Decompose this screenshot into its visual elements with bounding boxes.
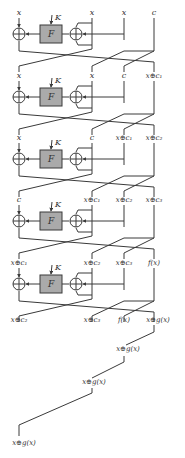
- left-xor-node: [13, 91, 25, 103]
- final-output-label: x⊕c₃: [84, 316, 101, 324]
- key-arrow: [51, 265, 52, 274]
- round-input-label: x⊕c₂: [116, 196, 133, 204]
- round-input-label: x⊕c₁: [146, 72, 163, 80]
- col2-tap-bottom: [76, 166, 92, 170]
- cross-col3-to-col2: [92, 238, 124, 259]
- f-function-label: F: [47, 154, 55, 164]
- round-input-label: x: [17, 8, 22, 17]
- final-output-label: f(x): [117, 316, 130, 324]
- trail-label-1: x⊕g(x): [116, 345, 140, 353]
- key-label: K: [54, 76, 62, 85]
- round-input-label: x⊕c₂: [146, 134, 163, 142]
- round-input-label: f(x): [147, 259, 160, 267]
- round-input-label: x⊕c₃: [146, 196, 163, 204]
- round-input-label: x⊕c₁: [84, 196, 101, 204]
- f-function-label: F: [47, 92, 55, 102]
- cross-col2-to-left: [19, 108, 92, 135]
- trail-wire-3: [19, 388, 92, 436]
- cross-left-to-right: [19, 41, 154, 72]
- key-arrow: [51, 140, 52, 149]
- cross-col3-to-col2: [92, 114, 124, 135]
- final-output-label: x⊕g(x): [146, 316, 170, 324]
- key-label: K: [54, 13, 62, 22]
- cross-left-to-right: [19, 228, 154, 259]
- round-input-label: x: [90, 71, 95, 80]
- cross-col2-to-left: [19, 170, 92, 197]
- final-output-label: x⊕c₂: [11, 316, 28, 324]
- round-3: xcx⊕c₁x⊕c₂FK: [13, 133, 162, 197]
- trail-wire-1: [126, 325, 154, 345]
- left-xor-node: [13, 153, 25, 165]
- cross-left-to-right: [19, 104, 154, 135]
- round-4: cx⊕c₁x⊕c₂x⊕c₃FK: [13, 195, 162, 259]
- round-input-label: x: [17, 71, 22, 80]
- feistel-network-diagram: xxxcFKxxcx⊕c₁FKxcx⊕c₁x⊕c₂FKcx⊕c₁x⊕c₂x⊕c₃…: [0, 0, 185, 458]
- col2-tap-top: [76, 273, 92, 277]
- round-input-label: x⊕c₃: [116, 259, 133, 267]
- left-xor-node: [13, 28, 25, 40]
- col2-tap-bottom: [76, 41, 92, 45]
- round-input-label: x: [90, 8, 95, 17]
- cross-col2-to-left: [19, 232, 92, 259]
- col2-tap-top: [76, 23, 92, 27]
- key-label: K: [54, 200, 62, 209]
- f-function-label: F: [47, 216, 55, 226]
- cross-col2-to-left: [19, 45, 92, 72]
- key-label: K: [54, 138, 62, 147]
- round-input-label: c: [90, 133, 95, 142]
- round-1: xxxcFK: [13, 8, 157, 72]
- f-function-label: F: [47, 29, 55, 39]
- cross-col2-to-left: [19, 295, 92, 322]
- right-xor-node: [70, 91, 82, 103]
- round-2: xxcx⊕c₁FK: [13, 71, 162, 135]
- col2-tap-bottom: [76, 104, 92, 108]
- col2-tap-top: [76, 210, 92, 214]
- cross-left-to-right: [19, 166, 154, 197]
- col2-tap-top: [76, 86, 92, 90]
- right-xor-node: [70, 215, 82, 227]
- col2-tap-bottom: [76, 291, 92, 295]
- round-input-label: x⊕c₂: [84, 259, 101, 267]
- right-xor-node: [70, 28, 82, 40]
- trail-wire-2: [92, 356, 124, 378]
- right-xor-node: [70, 153, 82, 165]
- round-input-label: c: [122, 71, 127, 80]
- trail-label-3: x⊕g(x): [12, 439, 36, 447]
- diagram-canvas: xxxcFKxxcx⊕c₁FKxcx⊕c₁x⊕c₂FKcx⊕c₁x⊕c₂x⊕c₃…: [0, 0, 185, 458]
- key-arrow: [51, 202, 52, 211]
- right-xor-node: [70, 278, 82, 290]
- round-input-label: c: [17, 195, 22, 204]
- round-input-label: x⊕c₁: [116, 134, 133, 142]
- left-xor-node: [13, 215, 25, 227]
- cross-col3-to-col2: [92, 176, 124, 197]
- cross-col3-to-col2: [92, 51, 124, 72]
- round-5: x⊕c₁x⊕c₂x⊕c₃f(x)FK: [11, 259, 161, 322]
- key-label: K: [54, 263, 62, 272]
- key-arrow: [51, 78, 52, 87]
- col2-tap-bottom: [76, 228, 92, 232]
- round-input-label: x⊕c₁: [11, 259, 28, 267]
- trail-label-2: x⊕g(x): [82, 378, 106, 386]
- round-input-label: x: [122, 8, 127, 17]
- col2-tap-top: [76, 148, 92, 152]
- round-input-label: x: [17, 133, 22, 142]
- left-xor-node: [13, 278, 25, 290]
- f-function-label: F: [47, 279, 55, 289]
- round-input-label: c: [152, 8, 157, 17]
- key-arrow: [51, 15, 52, 24]
